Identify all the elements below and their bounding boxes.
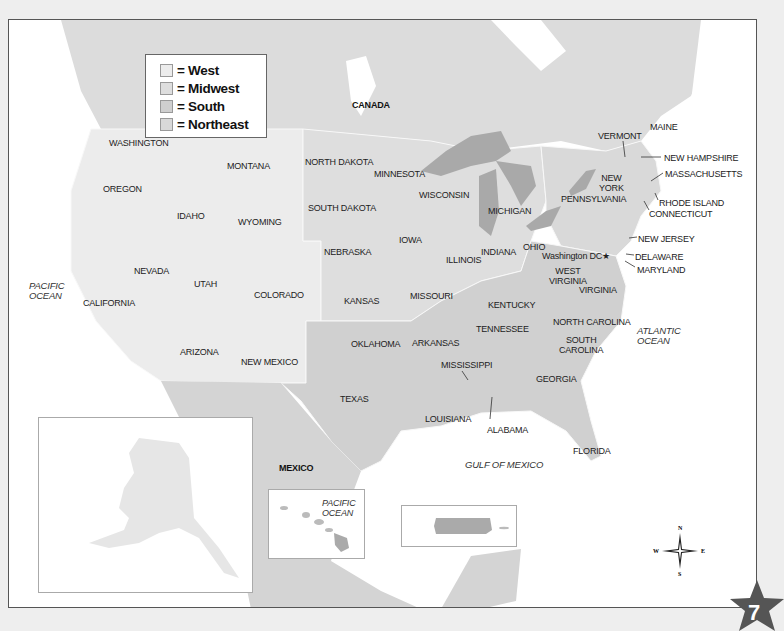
state-label: OREGON <box>103 184 142 194</box>
compass-e: E <box>701 548 705 554</box>
legend-swatch-west <box>160 64 173 77</box>
hawaii-islands <box>269 490 366 560</box>
state-label: NEW MEXICO <box>241 357 298 367</box>
state-label: TEXAS <box>340 394 369 404</box>
state-label: RHODE ISLAND <box>659 198 724 208</box>
map-frame: CANADA MEXICO PACIFIC OCEAN ATLANTIC OCE… <box>8 19 757 608</box>
state-label: LOUISIANA <box>425 414 471 424</box>
state-label: NEBRASKA <box>324 247 371 257</box>
state-label: WISCONSIN <box>419 190 469 200</box>
state-label: VERMONT <box>598 131 642 141</box>
state-label: UTAH <box>194 279 217 289</box>
state-label: IOWA <box>399 235 422 245</box>
legend-item-northeast: = Northeast <box>160 115 266 133</box>
state-label: GEORGIA <box>536 374 577 384</box>
state-label: MICHIGAN <box>488 206 531 216</box>
legend-label-south: = South <box>177 99 225 114</box>
compass-rose-icon: N S E W <box>657 528 703 574</box>
compass-w: W <box>653 548 659 554</box>
state-label: SOUTH CAROLINA <box>559 335 603 355</box>
state-label: NORTH DAKOTA <box>305 157 373 167</box>
state-label: MINNESOTA <box>374 169 425 179</box>
state-label: FLORIDA <box>573 446 611 456</box>
capital-label: Washington DC★ <box>542 251 610 261</box>
state-label: MAINE <box>650 122 678 132</box>
country-label-canada: CANADA <box>352 100 390 110</box>
state-label: WYOMING <box>238 217 282 227</box>
west-region <box>71 129 321 383</box>
legend-item-south: = South <box>160 97 266 115</box>
state-label: ILLINOIS <box>446 255 481 265</box>
state-label: ARIZONA <box>180 347 219 357</box>
state-label: NEW HAMPSHIRE <box>664 153 738 163</box>
state-label: OKLAHOMA <box>351 339 400 349</box>
compass-n: N <box>678 525 682 531</box>
country-label-mexico: MEXICO <box>279 463 313 473</box>
state-label: IDAHO <box>177 211 205 221</box>
state-label: MARYLAND <box>637 265 685 275</box>
legend-swatch-midwest <box>160 82 173 95</box>
state-label: NEW JERSEY <box>638 234 695 244</box>
compass-s: S <box>678 571 681 577</box>
state-label: CONNECTICUT <box>649 209 712 219</box>
state-label: MISSISSIPPI <box>441 360 492 370</box>
puerto-rico-inset <box>401 505 517 547</box>
state-label: KENTUCKY <box>488 300 535 310</box>
ocean-label-atlantic: ATLANTIC OCEAN <box>637 326 681 346</box>
state-label: MASSACHUSETTS <box>665 169 742 179</box>
legend-label-midwest: = Midwest <box>177 81 239 96</box>
state-label: ALABAMA <box>487 425 528 435</box>
state-label: NORTH CAROLINA <box>553 317 631 327</box>
state-label: WEST VIRGINIA <box>549 266 587 286</box>
state-label: NEVADA <box>134 266 169 276</box>
state-label: NEW YORK <box>599 173 624 193</box>
state-label: DELAWARE <box>635 252 683 262</box>
legend-item-midwest: = Midwest <box>160 79 266 97</box>
ocean-label-pacific: PACIFIC OCEAN <box>29 281 64 301</box>
state-label: COLORADO <box>254 290 304 300</box>
state-label: CALIFORNIA <box>83 298 135 308</box>
state-label: SOUTH DAKOTA <box>308 203 376 213</box>
ocean-label-gulf-of-mexico: GULF OF MEXICO <box>465 460 543 470</box>
state-label: KANSAS <box>344 296 379 306</box>
state-label: MISSOURI <box>410 291 453 301</box>
state-label: TENNESSEE <box>476 324 529 334</box>
alaska-shape <box>39 418 254 594</box>
page-number: 7 <box>748 600 760 626</box>
state-label: VIRGINIA <box>579 285 617 295</box>
state-label: MONTANA <box>227 161 270 171</box>
state-label: INDIANA <box>481 247 516 257</box>
state-label: ARKANSAS <box>412 338 459 348</box>
state-label: PENNSYLVANIA <box>561 194 626 204</box>
legend-swatch-south <box>160 100 173 113</box>
hawaii-inset: PACIFIC OCEAN <box>268 489 365 559</box>
state-label: WASHINGTON <box>109 138 169 148</box>
legend-item-west: = West <box>160 61 266 79</box>
legend-swatch-northeast <box>160 118 173 131</box>
region-legend: = West = Midwest = South = Northeast <box>145 54 267 138</box>
alaska-inset <box>38 417 253 593</box>
legend-label-northeast: = Northeast <box>177 117 248 132</box>
legend-label-west: = West <box>177 63 219 78</box>
puerto-rico-shape <box>402 506 518 548</box>
